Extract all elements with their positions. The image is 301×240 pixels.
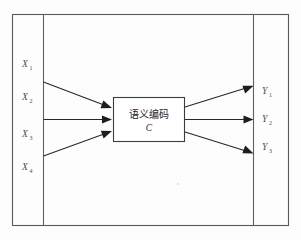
figure-container: 语义编码 C X 1 X 2 X 3 X 4 Y 1 Y 2 Y 3 bbox=[0, 0, 301, 240]
input-label-x4-base: X bbox=[21, 162, 29, 172]
input-label-x3-base: X bbox=[21, 129, 29, 139]
output-label-y3-subscript: 3 bbox=[269, 148, 272, 154]
input-label-x2-base: X bbox=[21, 92, 29, 102]
input-label-x4-subscript: 4 bbox=[30, 168, 33, 174]
input-label-x1-subscript: 1 bbox=[30, 65, 33, 71]
output-label-y2-subscript: 2 bbox=[269, 120, 272, 126]
output-label-y1-subscript: 1 bbox=[269, 92, 272, 98]
input-label-x2-subscript: 2 bbox=[30, 98, 33, 104]
encoder-box-symbol-label: C bbox=[146, 123, 153, 133]
encoder-decoder-diagram: 语义编码 C X 1 X 2 X 3 X 4 Y 1 Y 2 Y 3 bbox=[0, 0, 301, 240]
scan-artifact-speck bbox=[177, 183, 179, 185]
encoder-box-cjk-label: 语义编码 bbox=[129, 108, 169, 120]
input-label-x3-subscript: 3 bbox=[30, 135, 33, 141]
input-label-x1-base: X bbox=[21, 59, 29, 69]
